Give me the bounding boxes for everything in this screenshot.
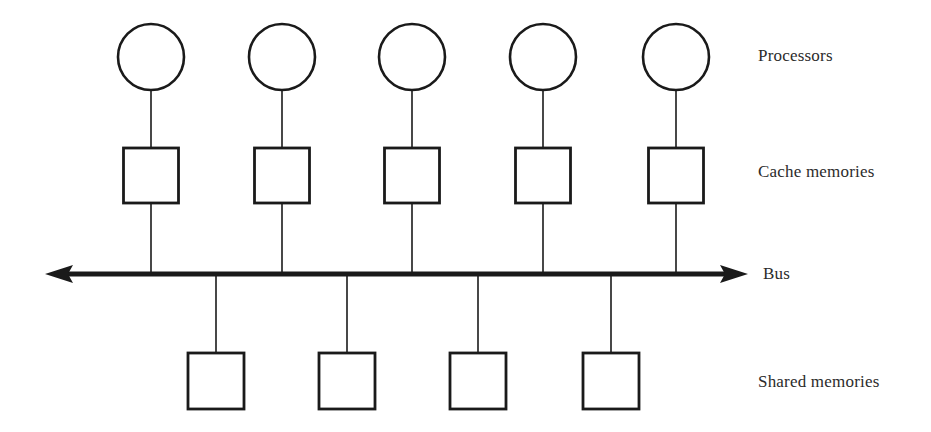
row-label-shared-memories: Shared memories [758, 372, 880, 392]
row-label-bus: Bus [763, 264, 790, 284]
shared-memory-node[interactable] [188, 353, 244, 409]
processor-node-group [118, 24, 709, 90]
cache-memory-node[interactable] [124, 148, 179, 203]
processor-node[interactable] [510, 24, 576, 90]
cache-memory-node[interactable] [516, 148, 571, 203]
shared-memory-node[interactable] [583, 353, 639, 409]
cache-memory-node[interactable] [649, 148, 704, 203]
cache-bus-connector-group [151, 202, 676, 275]
shared-memory-node[interactable] [319, 353, 375, 409]
processor-node[interactable] [249, 24, 315, 90]
processor-node[interactable] [118, 24, 184, 90]
row-label-processors: Processors [758, 46, 833, 66]
bus-shared-connector-group [216, 274, 611, 354]
cache-memory-node[interactable] [385, 148, 440, 203]
cache-node-group [124, 148, 704, 203]
processor-node[interactable] [379, 24, 445, 90]
shared-memory-node-group [188, 353, 639, 409]
diagram-canvas: Processors Cache memories Bus Shared mem… [0, 0, 931, 432]
processor-node[interactable] [643, 24, 709, 90]
shared-memory-node[interactable] [450, 353, 506, 409]
cache-memory-node[interactable] [255, 148, 310, 203]
row-label-cache-memories: Cache memories [758, 162, 875, 182]
processor-cache-connector-group [151, 90, 676, 149]
